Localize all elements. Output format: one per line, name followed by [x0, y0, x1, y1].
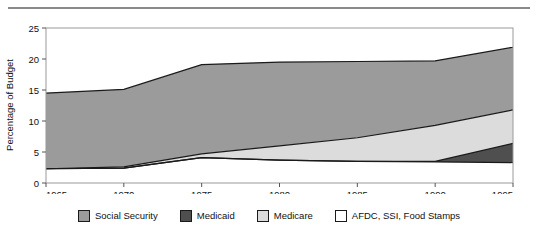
stacked-area-chart: 0510152025 1965197019751980198519901995 … — [0, 14, 538, 194]
legend-label-social-security: Social Security — [95, 211, 158, 221]
x-tick-label: 1970 — [113, 189, 134, 194]
x-tick-label: 1995 — [492, 189, 513, 194]
y-axis-title: Percentage of Budget — [4, 59, 15, 151]
x-axis: 1965197019751980198519901995 — [46, 183, 513, 194]
y-tick-label: 20 — [28, 54, 39, 65]
y-tick-label: 25 — [28, 23, 39, 34]
figure: 0510152025 1965197019751980198519901995 … — [0, 0, 538, 241]
legend-swatch-social-security — [78, 210, 90, 222]
y-axis: 0510152025 — [28, 23, 46, 189]
x-tick-label: 1985 — [347, 189, 368, 194]
legend-swatch-medicare — [257, 210, 269, 222]
legend-label-medicare: Medicare — [274, 211, 313, 221]
x-tick-label: 1975 — [191, 189, 212, 194]
legend-swatch-afdc-ssi-food-stamps — [335, 210, 347, 222]
x-tick-label: 1980 — [269, 189, 290, 194]
chart-area: 0510152025 1965197019751980198519901995 … — [0, 14, 538, 194]
legend-item-afdc-ssi-food-stamps: AFDC, SSI, Food Stamps — [335, 210, 460, 222]
x-tick-label: 1990 — [425, 189, 446, 194]
legend-item-medicaid: Medicaid — [180, 210, 235, 222]
chart-legend: Social Security Medicaid Medicare AFDC, … — [0, 205, 538, 227]
y-tick-label: 15 — [28, 85, 39, 96]
y-tick-label: 5 — [34, 147, 39, 158]
legend-swatch-medicaid — [180, 210, 192, 222]
legend-item-medicare: Medicare — [257, 210, 313, 222]
legend-label-medicaid: Medicaid — [197, 211, 235, 221]
y-tick-label: 10 — [28, 116, 39, 127]
x-tick-label: 1965 — [46, 189, 67, 194]
legend-label-afdc-ssi-food-stamps: AFDC, SSI, Food Stamps — [352, 211, 460, 221]
top-divider-rule — [8, 7, 530, 9]
y-tick-label: 0 — [34, 178, 39, 189]
legend-item-social-security: Social Security — [78, 210, 158, 222]
